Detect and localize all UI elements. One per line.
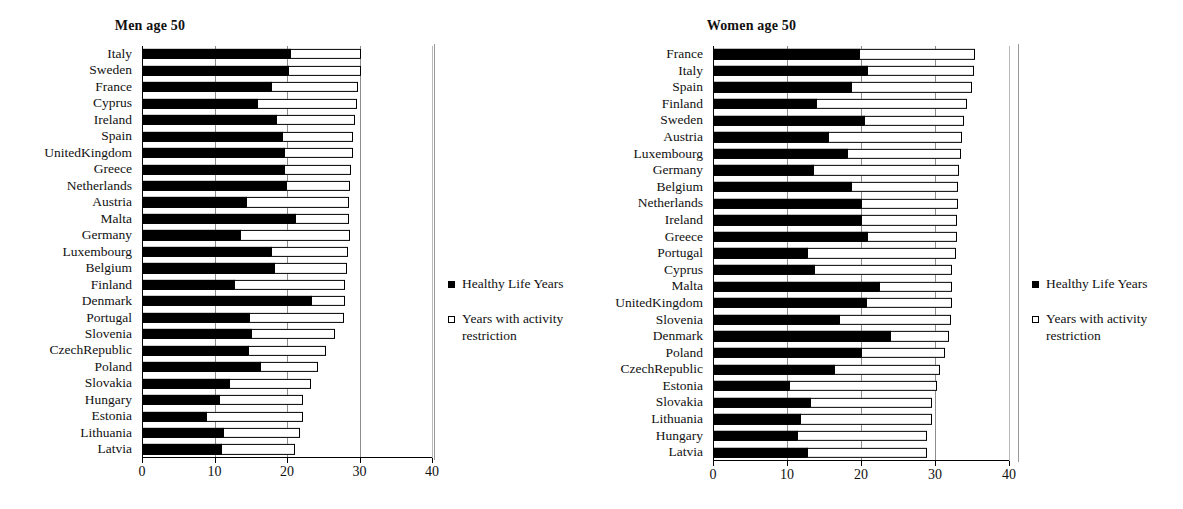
category-label: Greece — [591, 229, 707, 246]
bar-segment-restriction — [260, 362, 318, 372]
bar-segment-healthy — [142, 131, 283, 141]
category-label: Lithuania — [591, 411, 707, 428]
bar-row — [713, 295, 1009, 312]
tick-mark — [432, 458, 433, 463]
bar-segment-healthy — [713, 414, 801, 424]
bar-row — [713, 212, 1009, 229]
bar-segment-restriction — [839, 315, 951, 325]
bar-segment-healthy — [142, 66, 289, 76]
bar-row — [142, 441, 432, 457]
bar-row — [713, 162, 1009, 179]
bar-segment-restriction — [867, 66, 974, 76]
category-label: Slovenia — [591, 312, 707, 329]
bar-row — [713, 129, 1009, 146]
bar-row — [713, 328, 1009, 345]
bar-segment-restriction — [890, 331, 948, 341]
bar-segment-healthy — [713, 331, 891, 341]
bar-segment-restriction — [206, 411, 303, 421]
bar-segment-healthy — [142, 329, 252, 339]
bar-segment-healthy — [142, 82, 272, 92]
bar-segment-healthy — [142, 230, 241, 240]
bar-segment-healthy — [142, 197, 247, 207]
bar-segment-restriction — [246, 197, 349, 207]
bar-segment-restriction — [797, 431, 927, 441]
bar-segment-healthy — [713, 132, 829, 142]
bar-segment-healthy — [713, 199, 862, 209]
bar-row — [142, 310, 432, 326]
tick-label: 30 — [928, 467, 942, 483]
category-label: France — [591, 46, 707, 63]
bar-segment-healthy — [713, 49, 860, 59]
legend-swatch-restriction-icon — [1032, 316, 1039, 323]
bar-segment-restriction — [814, 265, 952, 275]
category-label: Slovakia — [591, 394, 707, 411]
bar-segment-restriction — [229, 379, 311, 389]
bar-segment-healthy — [142, 148, 285, 158]
bar-segment-restriction — [828, 132, 962, 142]
tick-mark — [215, 458, 216, 463]
bar-segment-restriction — [864, 116, 965, 126]
bar-segment-restriction — [866, 298, 952, 308]
bar-segment-healthy — [142, 428, 224, 438]
bar-row — [142, 145, 432, 161]
bar-row — [713, 428, 1009, 445]
tick-label: 20 — [854, 467, 868, 483]
legend-label-restriction: Years with activity restriction — [1046, 311, 1182, 345]
legend-item-healthy-women: Healthy Life Years — [1032, 276, 1182, 293]
category-label: Belgium — [10, 260, 136, 276]
bar-segment-restriction — [249, 313, 344, 323]
category-label: Austria — [10, 194, 136, 210]
bar-segment-healthy — [142, 411, 207, 421]
bar-row — [713, 278, 1009, 295]
bar-row — [713, 229, 1009, 246]
category-labels-women: FranceItalySpainFinlandSwedenAustriaLuxe… — [591, 46, 707, 461]
bar-segment-restriction — [807, 447, 926, 457]
bar-segment-healthy — [142, 362, 261, 372]
plot-area-women: FranceItalySpainFinlandSwedenAustriaLuxe… — [713, 46, 1009, 461]
bar-row — [713, 179, 1009, 196]
bar-row — [142, 326, 432, 342]
category-label: Malta — [591, 278, 707, 295]
category-label: Slovakia — [10, 375, 136, 391]
category-label: Denmark — [591, 328, 707, 345]
tick-mark — [787, 461, 788, 466]
plot-area-men: ItalySwedenFranceCyprusIrelandSpainUnite… — [142, 46, 432, 458]
bar-segment-healthy — [142, 296, 312, 306]
bar-row — [142, 112, 432, 128]
bar-segment-restriction — [295, 214, 349, 224]
bar-segment-restriction — [290, 49, 361, 59]
tick-label: 0 — [139, 464, 146, 480]
bar-segment-healthy — [142, 181, 287, 191]
category-label: France — [10, 79, 136, 95]
bar-segment-healthy — [142, 379, 230, 389]
category-label: Sweden — [10, 62, 136, 78]
bar-segment-healthy — [142, 164, 285, 174]
category-label: Portugal — [591, 245, 707, 262]
bar-row — [142, 244, 432, 260]
bar-segment-healthy — [142, 313, 250, 323]
bar-row — [142, 128, 432, 144]
bar-row — [713, 195, 1009, 212]
bar-row — [142, 392, 432, 408]
category-label: Netherlands — [10, 178, 136, 194]
x-axis-ticks-men: 010203040 — [142, 458, 432, 486]
bar-segment-restriction — [221, 444, 296, 454]
tick-label: 30 — [353, 464, 367, 480]
tick-mark — [1009, 461, 1010, 466]
legend-label-healthy: Healthy Life Years — [1046, 276, 1148, 293]
bar-row — [142, 178, 432, 194]
chart-title-men: Men age 50 — [0, 18, 450, 34]
bar-row — [142, 260, 432, 276]
category-label: Malta — [10, 211, 136, 227]
bar-segment-healthy — [713, 66, 868, 76]
legend-swatch-restriction-icon — [448, 316, 455, 323]
category-label: Luxembourg — [591, 146, 707, 163]
category-label: Belgium — [591, 179, 707, 196]
category-label: UnitedKingdom — [591, 295, 707, 312]
legend-item-restriction-men: Years with activity restriction — [448, 311, 578, 345]
bar-segment-restriction — [816, 99, 968, 109]
bar-segment-restriction — [282, 131, 354, 141]
category-label: Portugal — [10, 310, 136, 326]
bar-segment-restriction — [284, 148, 353, 158]
bar-row — [713, 361, 1009, 378]
